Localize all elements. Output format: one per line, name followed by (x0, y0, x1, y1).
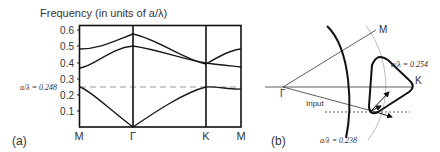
band-2-curve (80, 46, 241, 68)
contour-0.238 (327, 26, 349, 138)
input-ray (283, 87, 376, 112)
reference-frequency-label: a/λ = 0.248 (20, 83, 57, 92)
transmitted-wavevector-arrow (376, 112, 392, 117)
y-tick-0.4: 0.4 (60, 58, 74, 69)
gamma-point-label: Γ (280, 88, 286, 99)
figure: Frequency (in units of a/λ) 0.6 0.5 0.4 … (0, 0, 440, 152)
contour-upper-label: a/λ = 0.254 (391, 60, 428, 69)
band-1-curve (80, 87, 241, 127)
x-tick-m-left: M (74, 130, 83, 142)
x-tick-k: K (202, 130, 210, 142)
panel-b-equifrequency-contours: Γ M K Input a/λ = 0.254 a/λ = 0.238 (b) (265, 24, 428, 148)
y-tick-0.2: 0.2 (60, 90, 74, 101)
brillouin-zone-arc (366, 26, 386, 140)
y-tick-0.6: 0.6 (60, 25, 74, 36)
contour-lower-label: a/λ = 0.238 (320, 136, 357, 145)
m-point-label: M (379, 24, 387, 35)
panel-a-label: (a) (12, 134, 27, 148)
gamma-m-line (283, 30, 376, 87)
input-label: Input (306, 99, 325, 108)
band-3-curve (80, 34, 241, 64)
panel-a-band-structure: Frequency (in units of a/λ) 0.6 0.5 0.4 … (12, 7, 246, 148)
group-velocity-arrow (371, 92, 389, 111)
k-point-label: K (415, 75, 422, 86)
y-axis-title: Frequency (in units of a/λ) (40, 7, 167, 19)
band-curves (80, 34, 241, 127)
y-tick-0.3: 0.3 (60, 74, 74, 85)
x-tick-gamma: Γ (130, 130, 136, 142)
panel-b-label: (b) (271, 134, 286, 148)
plot-frame (80, 26, 242, 128)
y-tick-0.5: 0.5 (60, 41, 74, 52)
x-tick-m-right: M (236, 130, 245, 142)
y-tick-0.1: 0.1 (60, 106, 74, 117)
